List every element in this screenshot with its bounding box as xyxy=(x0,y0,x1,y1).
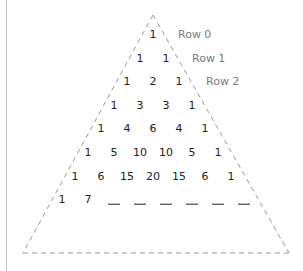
cell-value: 20 xyxy=(146,170,160,183)
cell-value: 4 xyxy=(176,122,183,135)
cell-value: 1 xyxy=(189,99,196,112)
cell-value: 7 xyxy=(85,193,92,206)
cell-value: 6 xyxy=(98,170,105,183)
cell-value: 1 xyxy=(163,52,170,65)
cell-value: 3 xyxy=(163,99,170,112)
cell-value: 15 xyxy=(172,170,186,183)
pascal-triangle-diagram: 11112113311464115101051161520156117 Row … xyxy=(0,0,303,271)
row-labels: Row 0Row 1Row 2 xyxy=(178,28,239,88)
cell-value: 1 xyxy=(124,75,131,88)
row-label: Row 1 xyxy=(192,52,225,65)
row-label: Row 0 xyxy=(178,28,211,41)
cell-value: 2 xyxy=(150,75,157,88)
cell-value: 10 xyxy=(133,146,147,159)
cell-value: 1 xyxy=(111,99,118,112)
row-label: Row 2 xyxy=(206,75,239,88)
cell-value: 1 xyxy=(137,52,144,65)
cell-value: 1 xyxy=(215,146,222,159)
cell-value: 1 xyxy=(98,122,105,135)
cell-value: 1 xyxy=(228,170,235,183)
cell-value: 5 xyxy=(189,146,196,159)
cell-value: 1 xyxy=(59,193,66,206)
triangle-left-edge xyxy=(23,15,153,253)
cell-value: 15 xyxy=(120,170,134,183)
cell-value: 3 xyxy=(137,99,144,112)
cell-value: 5 xyxy=(111,146,118,159)
cell-value: 4 xyxy=(124,122,131,135)
cell-value: 1 xyxy=(150,28,157,41)
cell-value: 1 xyxy=(202,122,209,135)
cell-value: 1 xyxy=(176,75,183,88)
cell-value: 1 xyxy=(72,170,79,183)
cell-value: 1 xyxy=(85,146,92,159)
cell-value: 6 xyxy=(202,170,209,183)
cell-value: 10 xyxy=(159,146,173,159)
cell-value: 6 xyxy=(150,122,157,135)
